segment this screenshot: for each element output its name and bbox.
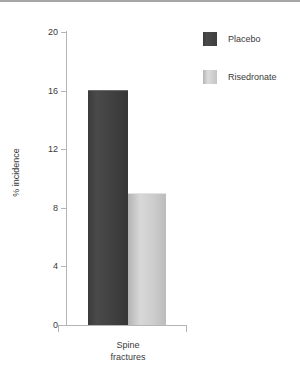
y-tick-label-12: 12 xyxy=(18,145,58,154)
y-axis-title: % incidence xyxy=(12,133,21,213)
y-tick-label-16: 16 xyxy=(18,87,58,96)
x-axis-category-label: Spine fractures xyxy=(82,339,174,363)
legend-swatch-placebo xyxy=(202,31,218,47)
legend-label-placebo: Placebo xyxy=(228,35,261,44)
legend-label-risedronate: Risedronate xyxy=(228,73,277,82)
bars-group xyxy=(88,31,166,325)
y-tick-mark-4 xyxy=(61,266,67,267)
y-tick-mark-12 xyxy=(61,149,67,150)
bar-risedronate xyxy=(128,193,166,325)
x-axis-category-label-line2: fractures xyxy=(110,352,145,362)
y-tick-mark-8 xyxy=(61,208,67,209)
y-tick-label-0: 0 xyxy=(18,321,58,330)
y-axis-line xyxy=(66,31,67,326)
legend-item-risedronate: Risedronate xyxy=(202,69,298,85)
y-tick-mark-20 xyxy=(61,32,67,33)
y-tick-mark-0 xyxy=(61,325,67,326)
legend-item-placebo: Placebo xyxy=(202,31,298,47)
y-tick-label-20: 20 xyxy=(18,28,58,37)
x-axis-category-label-line1: Spine xyxy=(116,340,139,350)
x-axis-right-cap-tick xyxy=(186,325,187,332)
bar-chart-figure: 20 16 12 8 4 0 % incidence Spine fractur… xyxy=(0,0,300,371)
legend-swatch-risedronate xyxy=(202,69,218,85)
x-axis-line xyxy=(58,325,187,326)
x-axis-left-cap-tick xyxy=(58,325,59,332)
y-tick-label-4: 4 xyxy=(18,262,58,271)
bar-placebo xyxy=(88,90,128,325)
y-tick-mark-16 xyxy=(61,91,67,92)
y-tick-label-8: 8 xyxy=(18,204,58,213)
chart-legend: Placebo Risedronate xyxy=(202,31,298,107)
